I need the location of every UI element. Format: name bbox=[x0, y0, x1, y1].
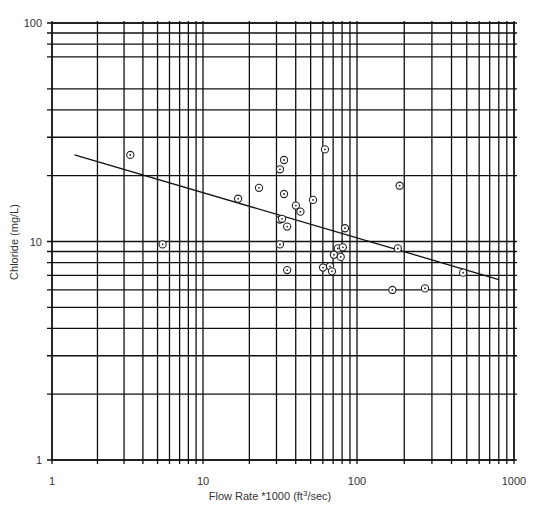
y-axis-title: Chloride (mg/L) bbox=[8, 204, 20, 280]
data-point-marker bbox=[328, 268, 335, 275]
data-point-marker bbox=[319, 264, 326, 271]
data-point-marker bbox=[459, 269, 466, 276]
data-point-marker bbox=[341, 225, 348, 232]
y-tick-label: 1 bbox=[36, 454, 42, 466]
data-point-marker bbox=[280, 156, 287, 163]
data-point-marker bbox=[234, 195, 241, 202]
data-point-marker bbox=[276, 166, 283, 173]
data-point-marker bbox=[330, 251, 337, 258]
x-axis-title: Flow Rate *1000 (ft3/sec) bbox=[209, 489, 331, 502]
data-point-marker bbox=[421, 285, 428, 292]
y-tick-label: 100 bbox=[24, 17, 42, 29]
data-point-marker bbox=[337, 253, 344, 260]
data-point-marker bbox=[278, 215, 285, 222]
chloride-vs-flow-chart: 1101001000 110100 Flow Rate *1000 (ft3/s… bbox=[0, 0, 534, 517]
data-point-marker bbox=[396, 182, 403, 189]
x-tick-label: 100 bbox=[348, 475, 366, 487]
data-point-marker bbox=[339, 244, 346, 251]
y-tick-label: 10 bbox=[30, 236, 42, 248]
x-tick-label: 1000 bbox=[502, 475, 526, 487]
data-point-marker bbox=[297, 208, 304, 215]
x-tick-label: 10 bbox=[197, 475, 209, 487]
data-point-marker bbox=[276, 241, 283, 248]
data-point-marker bbox=[159, 241, 166, 248]
data-point-marker bbox=[280, 190, 287, 197]
x-axis-tick-labels: 1101001000 bbox=[49, 475, 526, 487]
data-point-marker bbox=[284, 266, 291, 273]
trend-line bbox=[75, 155, 499, 280]
y-axis-tick-labels: 110100 bbox=[24, 17, 42, 466]
data-point-marker bbox=[309, 196, 316, 203]
x-tick-label: 1 bbox=[49, 475, 55, 487]
data-point-marker bbox=[255, 184, 262, 191]
data-point-marker bbox=[127, 151, 134, 158]
data-point-marker bbox=[321, 146, 328, 153]
data-point-marker bbox=[389, 286, 396, 293]
data-point-marker bbox=[284, 223, 291, 230]
data-point-marker bbox=[394, 245, 401, 252]
x-axis-title-post: /sec) bbox=[307, 490, 331, 502]
x-axis-title-pre: Flow Rate *1000 (ft bbox=[209, 490, 303, 502]
